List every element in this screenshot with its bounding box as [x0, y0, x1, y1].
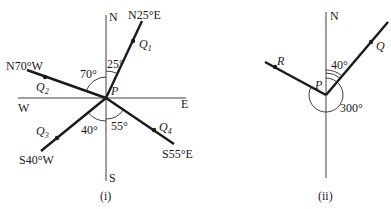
- point-q: [369, 40, 373, 44]
- angle-arc-55: [106, 110, 123, 119]
- figure-i: N S W E P N25°E N70°W S40°W S55°E Q1 Q2 …: [6, 8, 193, 203]
- angle-label-40: 40°: [81, 123, 98, 137]
- angle-label-300: 300°: [340, 101, 363, 115]
- label-p-ii: P: [314, 78, 323, 92]
- bearings-diagram: N S W E P N25°E N70°W S40°W S55°E Q1 Q2 …: [0, 0, 391, 209]
- label-q4: Q4: [159, 120, 172, 136]
- label-q3: Q3: [36, 124, 49, 140]
- angle-label-55: 55°: [111, 119, 128, 133]
- label-east: E: [181, 97, 188, 111]
- label-s55e: S55°E: [162, 147, 193, 161]
- label-q-ii: Q: [376, 39, 385, 53]
- label-n25e: N25°E: [128, 8, 161, 22]
- point-q4: [152, 128, 156, 132]
- angle-label-70: 70°: [80, 67, 97, 81]
- angle-label-25: 25°: [107, 57, 124, 71]
- label-r-ii: R: [276, 54, 285, 68]
- label-q2: Q2: [36, 80, 49, 96]
- label-north: N: [109, 10, 118, 24]
- caption-i: (i): [100, 189, 111, 203]
- label-p: P: [110, 84, 119, 98]
- angle-arc-40: [88, 113, 106, 121]
- angle-label-40-ii: 40°: [331, 58, 348, 72]
- angle-arc-25: [106, 71, 117, 74]
- label-south: S: [109, 171, 116, 185]
- point-q2: [43, 75, 47, 79]
- caption-ii: (ii): [318, 189, 333, 203]
- point-q1: [131, 39, 135, 43]
- label-n70w: N70°W: [6, 59, 43, 73]
- label-s40w: S40°W: [19, 153, 54, 167]
- label-west: W: [18, 101, 30, 115]
- label-north-ii: N: [330, 9, 339, 23]
- figure-ii: N P Q R 40° 300° (ii): [265, 9, 388, 203]
- point-q3: [55, 136, 59, 140]
- angle-arc-40-ii-inner: [326, 73, 340, 78]
- label-q1: Q1: [139, 37, 152, 53]
